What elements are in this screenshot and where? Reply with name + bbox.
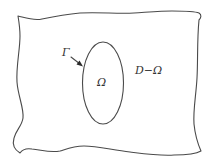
- domain-d-boundary: [13, 11, 201, 155]
- gamma-label: Γ: [61, 46, 70, 59]
- d-minus-omega-label: D−Ω: [134, 64, 162, 77]
- domain-diagram: Γ Ω D−Ω: [0, 0, 211, 167]
- omega-label: Ω: [96, 76, 106, 89]
